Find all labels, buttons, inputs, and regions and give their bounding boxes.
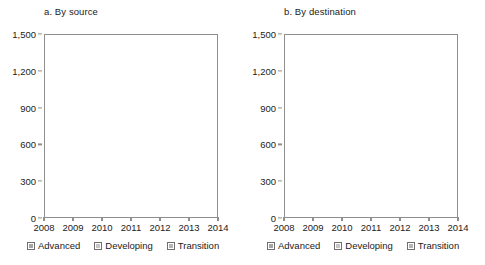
panel-a-plot-frame bbox=[44, 34, 218, 218]
legend-label-transition: Transition bbox=[418, 240, 459, 251]
legend-swatch-advanced-icon bbox=[27, 242, 35, 250]
x-tick-label: 2014 bbox=[207, 222, 228, 233]
x-tick-mark bbox=[217, 217, 218, 221]
y-tick-mark bbox=[278, 181, 282, 182]
x-tick-mark bbox=[159, 217, 160, 221]
x-tick-label: 2012 bbox=[389, 222, 410, 233]
y-tick-label: 300 bbox=[20, 176, 36, 187]
legend-swatch-developing-icon bbox=[334, 242, 342, 250]
x-tick-label: 2011 bbox=[361, 222, 381, 233]
legend-item-developing[interactable]: Developing bbox=[334, 240, 393, 251]
y-tick-mark bbox=[38, 217, 42, 218]
x-tick-mark bbox=[43, 217, 44, 221]
y-tick-mark bbox=[278, 107, 282, 108]
legend-swatch-transition-icon bbox=[167, 242, 175, 250]
y-tick-mark bbox=[278, 217, 282, 218]
x-tick-label: 2013 bbox=[418, 222, 439, 233]
legend-swatch-advanced-icon bbox=[267, 242, 275, 250]
y-tick-label: 1,500 bbox=[252, 29, 276, 40]
legend-item-transition[interactable]: Transition bbox=[407, 240, 459, 251]
panel-b-x-axis: 2008200920102011201220132014 bbox=[284, 221, 458, 237]
x-tick-mark bbox=[188, 217, 189, 221]
legend-item-transition[interactable]: Transition bbox=[167, 240, 219, 251]
x-tick-label: 2011 bbox=[121, 222, 141, 233]
x-tick-label: 2013 bbox=[178, 222, 199, 233]
x-tick-mark bbox=[341, 217, 342, 221]
panel-b-plot-area bbox=[284, 34, 458, 218]
x-tick-mark bbox=[283, 217, 284, 221]
x-tick-mark bbox=[72, 217, 73, 221]
legend-item-developing[interactable]: Developing bbox=[94, 240, 153, 251]
legend-label-transition: Transition bbox=[178, 240, 219, 251]
panel-a-x-axis: 2008200920102011201220132014 bbox=[44, 221, 218, 237]
panel-a-title: a. By source bbox=[44, 6, 98, 17]
x-tick-label: 2009 bbox=[62, 222, 83, 233]
x-tick-mark bbox=[130, 217, 131, 221]
panel-a-y-axis: 03006009001,2001,500 bbox=[2, 34, 42, 218]
y-tick-label: 1,200 bbox=[12, 65, 36, 76]
legend-label-advanced: Advanced bbox=[278, 240, 320, 251]
panel-a-legend: AdvancedDevelopingTransition bbox=[27, 240, 219, 251]
panel-b-plot-frame bbox=[284, 34, 458, 218]
y-tick-label: 1,200 bbox=[252, 65, 276, 76]
x-tick-label: 2010 bbox=[91, 222, 112, 233]
panel-by-source: a. By source 03006009001,2001,500 200820… bbox=[0, 0, 242, 265]
legend-swatch-developing-icon bbox=[94, 242, 102, 250]
y-tick-mark bbox=[38, 33, 42, 34]
y-tick-mark bbox=[38, 70, 42, 71]
x-tick-mark bbox=[101, 217, 102, 221]
y-tick-mark bbox=[38, 107, 42, 108]
x-tick-label: 2014 bbox=[447, 222, 468, 233]
y-tick-mark bbox=[278, 70, 282, 71]
x-tick-mark bbox=[312, 217, 313, 221]
y-tick-label: 300 bbox=[260, 176, 276, 187]
x-tick-mark bbox=[399, 217, 400, 221]
x-tick-label: 2008 bbox=[33, 222, 54, 233]
x-tick-label: 2009 bbox=[302, 222, 323, 233]
panel-b-legend: AdvancedDevelopingTransition bbox=[267, 240, 459, 251]
x-tick-label: 2008 bbox=[273, 222, 294, 233]
x-tick-mark bbox=[428, 217, 429, 221]
y-tick-label: 600 bbox=[260, 139, 276, 150]
figure-two-panel-stacked-area: a. By source 03006009001,2001,500 200820… bbox=[0, 0, 485, 265]
legend-item-advanced[interactable]: Advanced bbox=[267, 240, 320, 251]
y-tick-mark bbox=[278, 33, 282, 34]
legend-swatch-transition-icon bbox=[407, 242, 415, 250]
y-tick-mark bbox=[38, 144, 42, 145]
y-tick-label: 900 bbox=[20, 102, 36, 113]
panel-a-plot-area bbox=[44, 34, 218, 218]
x-tick-label: 2012 bbox=[149, 222, 170, 233]
y-tick-label: 900 bbox=[260, 102, 276, 113]
x-tick-label: 2010 bbox=[331, 222, 352, 233]
y-tick-label: 600 bbox=[20, 139, 36, 150]
panel-by-destination: b. By destination 03006009001,2001,500 2… bbox=[242, 0, 484, 265]
legend-item-advanced[interactable]: Advanced bbox=[27, 240, 80, 251]
legend-label-developing: Developing bbox=[105, 240, 153, 251]
x-tick-mark bbox=[370, 217, 371, 221]
y-tick-mark bbox=[278, 144, 282, 145]
panel-b-title: b. By destination bbox=[284, 6, 356, 17]
legend-label-advanced: Advanced bbox=[38, 240, 80, 251]
legend-label-developing: Developing bbox=[345, 240, 393, 251]
y-tick-label: 1,500 bbox=[12, 29, 36, 40]
panel-b-y-axis: 03006009001,2001,500 bbox=[242, 34, 282, 218]
y-tick-mark bbox=[38, 181, 42, 182]
x-tick-mark bbox=[457, 217, 458, 221]
